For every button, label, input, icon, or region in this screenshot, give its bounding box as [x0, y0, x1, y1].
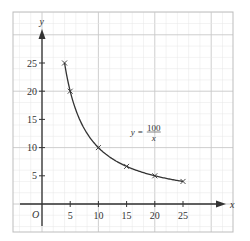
axes — [20, 29, 226, 226]
equation-numerator: 100 — [147, 123, 161, 133]
y-tick-label: 5 — [32, 170, 37, 181]
labels: x y O y = 100 x — [32, 16, 235, 220]
y-tick-label: 15 — [27, 114, 37, 125]
x-tick-label: 10 — [93, 210, 103, 221]
origin-label: O — [32, 209, 39, 220]
x-tick-label: 15 — [122, 210, 132, 221]
curve-layer — [65, 63, 183, 181]
y-axis-label: y — [39, 16, 45, 27]
equation-denominator: x — [151, 133, 156, 143]
x-axis-label: x — [229, 199, 235, 210]
data-point-marker — [124, 164, 129, 169]
ticks: 510152025510152025 — [27, 58, 188, 222]
y-axis-arrow-icon — [39, 29, 46, 39]
x-tick-label: 20 — [150, 210, 160, 221]
equation-equals: = — [138, 127, 143, 137]
curve-y-equals-100-over-x — [65, 63, 183, 181]
y-tick-label: 20 — [27, 86, 37, 97]
x-axis-arrow-icon — [216, 201, 226, 208]
equation-lhs: y — [130, 127, 135, 137]
y-tick-label: 25 — [27, 58, 37, 69]
x-tick-label: 5 — [68, 210, 73, 221]
chart: 510152025510152025 x y O y = 100 x — [0, 0, 250, 241]
grid — [13, 12, 233, 232]
x-tick-label: 25 — [178, 210, 188, 221]
equation-annotation: y = 100 x — [130, 123, 161, 143]
y-tick-label: 10 — [27, 142, 37, 153]
